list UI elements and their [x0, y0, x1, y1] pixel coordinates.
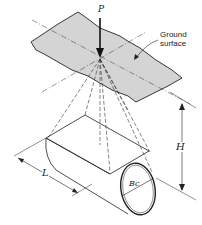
- ground-surface-label-line2: surface: [160, 39, 186, 48]
- pipe-body-bottom-edge: [56, 170, 128, 214]
- ground-surface-label-line1: Ground: [160, 30, 187, 39]
- pipe-body-top-edge: [46, 138, 110, 174]
- length-label: L: [42, 168, 49, 178]
- ground-surface-plate: [31, 12, 182, 102]
- diameter-label: Bc: [129, 180, 139, 188]
- height-label: H: [176, 142, 185, 152]
- boussinesq-pipe-load-diagram: P Ground surface H L Bc: [0, 0, 202, 225]
- load-label: P: [98, 5, 104, 14]
- height-ext-bottom: [156, 178, 196, 200]
- length-ext-top: [14, 138, 46, 156]
